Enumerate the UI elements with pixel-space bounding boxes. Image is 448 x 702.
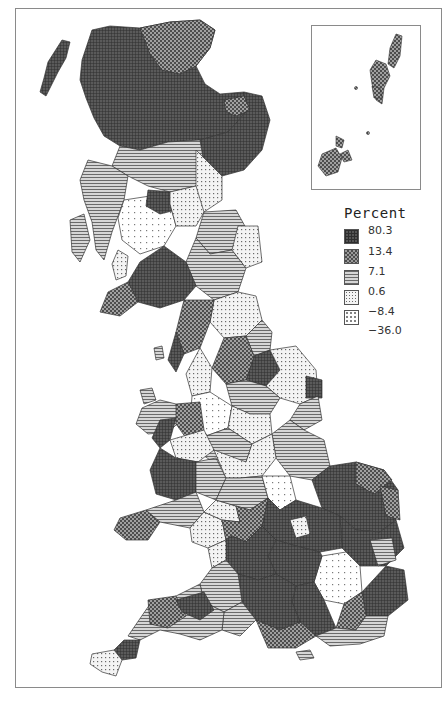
legend-swatch-class-3: [344, 270, 359, 285]
map-legend: Percent 80.3 13.4 7.1 0.6 −8.4 −36.0: [336, 205, 426, 335]
legend-boundary-label: 13.4: [368, 245, 393, 258]
legend-boundary-label: 7.1: [368, 265, 386, 278]
legend-boundary-label: 80.3: [368, 224, 393, 237]
legend-title: Percent: [344, 205, 407, 221]
shetland-orkney-inset: [311, 25, 421, 190]
legend-boundary-label: 0.6: [368, 285, 386, 298]
legend-boundary-label: −8.4: [368, 305, 395, 318]
inset-map: [312, 26, 422, 191]
legend-swatch-class-5: [344, 310, 359, 325]
legend-swatch-class-1: [344, 229, 359, 244]
legend-swatch-class-4: [344, 290, 359, 305]
legend-swatch-class-2: [344, 249, 359, 264]
legend-boundary-label: −36.0: [368, 324, 402, 337]
